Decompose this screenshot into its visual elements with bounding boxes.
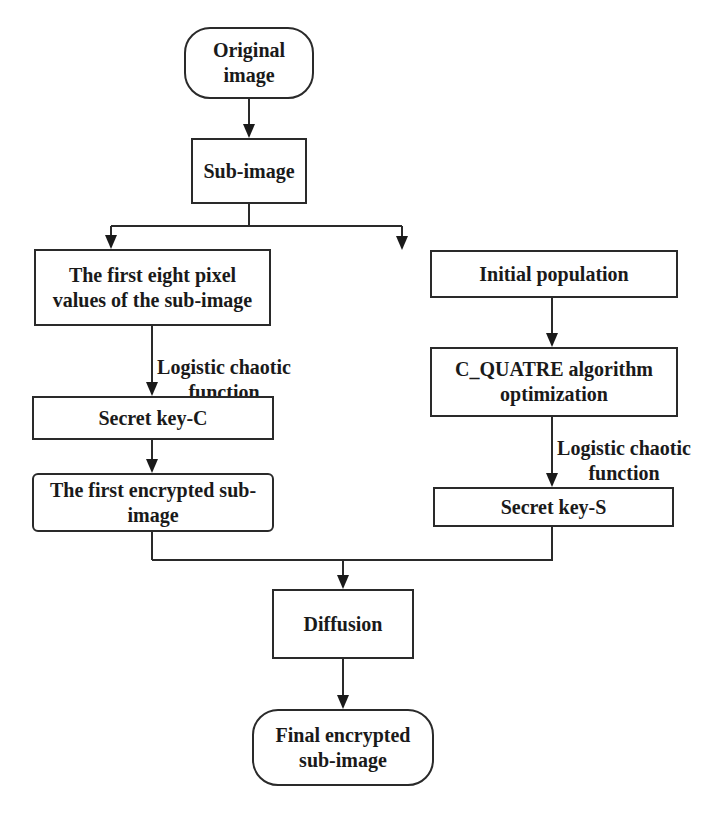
node-label: Sub-image bbox=[203, 159, 294, 184]
node-sub-image: Sub-image bbox=[191, 138, 307, 204]
node-label: Original image bbox=[186, 38, 312, 88]
node-secret-key-c: Secret key-C bbox=[32, 396, 274, 440]
node-final-encrypted-sub-image: Final encrypted sub-image bbox=[252, 709, 434, 786]
node-label: Secret key-C bbox=[98, 406, 207, 431]
node-label: Initial population bbox=[479, 262, 629, 287]
edge-label-right-logistic: Logistic chaotic function bbox=[550, 436, 698, 486]
node-label: The first eight pixel values of the sub-… bbox=[46, 263, 259, 313]
node-original-image: Original image bbox=[184, 27, 314, 99]
node-diffusion: Diffusion bbox=[272, 589, 414, 659]
node-initial-population: Initial population bbox=[430, 250, 678, 298]
node-label: Secret key-S bbox=[501, 495, 607, 520]
node-first-eight-pixels: The first eight pixel values of the sub-… bbox=[34, 249, 271, 326]
node-label: The first encrypted sub-image bbox=[40, 478, 266, 528]
node-label: Final encrypted sub-image bbox=[268, 723, 418, 773]
node-label: Diffusion bbox=[304, 612, 383, 637]
node-first-encrypted-sub-image: The first encrypted sub-image bbox=[32, 473, 274, 532]
node-label: C_QUATRE algorithm optimization bbox=[444, 357, 664, 407]
node-c-quatre-optimization: C_QUATRE algorithm optimization bbox=[430, 347, 678, 417]
node-secret-key-s: Secret key-S bbox=[433, 487, 674, 527]
